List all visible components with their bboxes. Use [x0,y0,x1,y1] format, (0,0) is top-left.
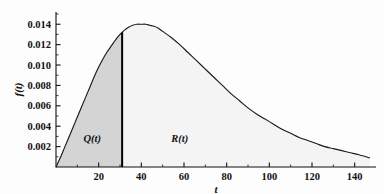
r-region-fill [122,24,369,167]
y-axis-tick-labels: 0.0020.0040.0060.0080.0100.0120.014 [27,19,51,152]
y-axis-ticks [56,14,61,157]
y-tick-label: 0.014 [27,19,51,30]
y-axis-title: f(t) [12,82,25,96]
x-tick-label: 140 [347,171,363,182]
chart-figure: 20406080100120140 0.0020.0040.0060.0080.… [0,0,384,194]
y-tick-label: 0.010 [27,60,51,71]
q-region-label: Q(t) [84,133,102,145]
y-tick-label: 0.008 [27,80,51,91]
x-axis-title: t [214,183,218,194]
x-tick-label: 40 [136,171,147,182]
q-region-fill [56,32,122,167]
y-tick-label: 0.002 [27,141,51,152]
y-tick-label: 0.006 [27,100,51,111]
x-tick-label: 20 [93,171,104,182]
density-plot: 20406080100120140 0.0020.0040.0060.0080.… [0,0,384,194]
r-region-label: R(t) [170,133,188,145]
x-tick-label: 120 [304,171,320,182]
x-axis-tick-labels: 20406080100120140 [93,171,362,182]
x-tick-label: 80 [221,171,232,182]
x-tick-label: 60 [179,171,190,182]
y-tick-label: 0.012 [27,39,51,50]
x-tick-label: 100 [261,171,277,182]
y-tick-label: 0.004 [27,121,51,132]
